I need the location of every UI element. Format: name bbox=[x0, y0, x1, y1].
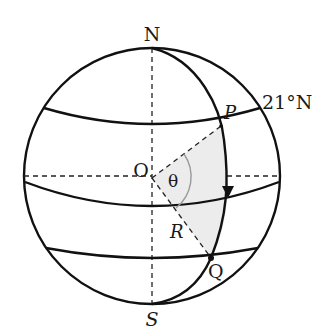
label-north: N bbox=[144, 23, 161, 45]
label-latitude: 21°N bbox=[262, 91, 312, 113]
shaded-sector bbox=[152, 126, 228, 258]
label-p: P bbox=[223, 102, 237, 123]
label-theta: θ bbox=[168, 171, 178, 191]
label-center-o: O bbox=[133, 159, 149, 181]
label-south: S bbox=[145, 308, 158, 330]
label-q: Q bbox=[208, 260, 224, 282]
point-p-dot bbox=[219, 124, 223, 128]
sphere-diagram: N S O P Q R θ 21°N bbox=[0, 0, 325, 333]
label-r: R bbox=[169, 221, 184, 242]
